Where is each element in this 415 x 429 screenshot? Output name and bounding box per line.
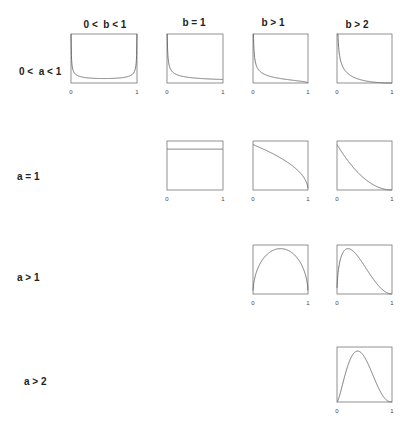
panel-a0.5-b1.5: 01 [251,34,310,95]
panel-frame [337,245,392,294]
panel-a2.5-b3.5: 01 [335,347,394,414]
x-tick-label-1: 1 [221,89,225,95]
x-tick-label-1: 1 [306,89,310,95]
density-curve [167,34,223,80]
x-tick-label-1: 1 [390,408,394,414]
panel-a0.5-b3: 01 [335,34,394,95]
x-tick-label-0: 0 [335,89,339,95]
density-curve [71,34,137,79]
x-tick-label-0: 0 [165,89,169,95]
panel-a1-b1: 01 [165,141,225,202]
density-curve [337,249,392,294]
panel-frame [167,141,223,190]
beta-density-grid: 01010101010101010101 [0,0,415,429]
x-tick-label-1: 1 [390,89,394,95]
x-tick-label-1: 1 [306,196,310,202]
x-tick-label-0: 0 [69,89,73,95]
x-tick-label-0: 0 [251,89,255,95]
panel-frame [167,34,223,83]
density-curve [253,249,308,291]
x-tick-label-0: 0 [335,300,339,306]
x-tick-label-1: 1 [390,196,394,202]
panel-a0.5-b0.5: 01 [69,34,139,95]
panel-a1.5-b1.5: 01 [251,245,310,306]
x-tick-label-1: 1 [306,300,310,306]
density-curve [253,34,308,83]
panel-frame [253,34,308,83]
density-curve [337,351,392,402]
x-tick-label-0: 0 [165,196,169,202]
density-curve [337,145,392,190]
panel-a0.5-b1: 01 [165,34,225,95]
density-curve [253,145,308,189]
panel-frame [337,34,392,83]
panel-frame [337,141,392,190]
panel-a1.5-b3: 01 [335,245,394,306]
x-tick-label-0: 0 [251,300,255,306]
x-tick-label-0: 0 [335,408,339,414]
panel-a1-b1.5: 01 [251,141,310,202]
panel-a1-b3: 01 [335,141,394,202]
x-tick-label-0: 0 [251,196,255,202]
x-tick-label-1: 1 [135,89,139,95]
panel-frame [253,245,308,294]
panel-frame [71,34,137,83]
x-tick-label-1: 1 [221,196,225,202]
density-curve [337,34,392,83]
x-tick-label-1: 1 [390,300,394,306]
x-tick-label-0: 0 [335,196,339,202]
